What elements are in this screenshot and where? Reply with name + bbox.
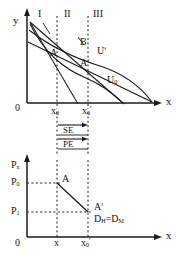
upper-x-axis (27, 100, 162, 106)
lower-xtick-x0-prime-mark: ʹ (89, 237, 91, 246)
price-tick-p1: P1 (11, 206, 20, 217)
curve-label-u-zero: U0 (107, 75, 117, 86)
point-label-a-lower: A (62, 174, 69, 184)
upper-xtick-x0-sub: 0 (56, 109, 59, 116)
se-label: SE (63, 126, 74, 135)
pe-label: PE (63, 140, 74, 149)
lower-xtick-x: x (54, 238, 59, 248)
upper-pointer-ticks (43, 23, 84, 45)
demand-label-dm: D (111, 213, 118, 224)
demand-curve-label: DH=DM (94, 214, 124, 225)
lower-panel (24, 154, 162, 240)
lower-horizontal-guides (27, 183, 91, 212)
upper-xtick-x0-prime: x0ʹ (82, 106, 92, 117)
point-label-a-prime-upper: Aʹ (80, 58, 89, 68)
lower-x-axis (27, 234, 162, 240)
upper-panel (24, 8, 162, 109)
upper-x-axis-label: x (166, 96, 172, 107)
lower-x-axis-label: x (166, 230, 172, 241)
upper-y-axis-label: y (13, 15, 19, 26)
region-label-i: I (38, 9, 41, 19)
curve-label-u-prime: Uʹ (97, 46, 106, 56)
region-label-ii: II (64, 9, 71, 19)
demand-curve (57, 183, 88, 212)
upper-xtick-x0: x0 (51, 106, 59, 117)
lower-origin-label: 0 (15, 238, 20, 248)
point-label-a-upper: A (50, 48, 57, 58)
curve-label-u-zero-sub: 0 (114, 78, 117, 85)
upper-y-axis (24, 8, 30, 103)
upper-xtick-x0-prime-mark: ʹ (90, 105, 92, 114)
point-label-a-prime-lower: Aʹ (94, 202, 103, 212)
lower-xtick-x-base: x (54, 237, 59, 248)
lower-y-axis-label: Px (11, 160, 20, 171)
upper-origin-label: 0 (15, 103, 20, 113)
price-tick-p0: P0 (11, 177, 20, 188)
upper-indifference-curves (29, 24, 152, 104)
price-tick-p0-sub: 0 (17, 180, 20, 187)
price-tick-p1-sub: 1 (17, 209, 20, 216)
point-label-b: B (80, 37, 87, 47)
region-label-iii: III (93, 9, 103, 19)
demand-label-dm-sub: M (119, 217, 125, 224)
lower-y-axis-label-sub: x (17, 163, 20, 170)
economics-figure (0, 0, 180, 257)
lower-vertical-guides (57, 160, 88, 237)
lower-xtick-x0-prime: x0ʹ (81, 238, 91, 249)
lower-y-axis (24, 154, 30, 237)
